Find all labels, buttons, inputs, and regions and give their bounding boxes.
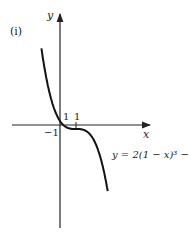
graph: (i) y x −1 1 1 y = 2(1 − x)³ − 1 bbox=[0, 0, 190, 233]
y-axis-label: y bbox=[46, 9, 54, 22]
equation-label: y = 2(1 − x)³ − 1 bbox=[111, 149, 190, 160]
x-axis-label: x bbox=[143, 128, 150, 141]
figure-label: (i) bbox=[10, 25, 22, 38]
x-tick-label-1: 1 bbox=[74, 111, 80, 122]
x-tick-label-neg1: −1 bbox=[44, 127, 59, 138]
y-tick-label-1: 1 bbox=[63, 111, 69, 122]
